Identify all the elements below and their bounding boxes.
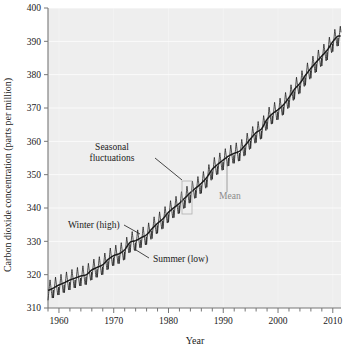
x-tick-label: 1990 <box>214 316 233 326</box>
annotation-text: Seasonal <box>95 142 129 152</box>
y-tick-label: 350 <box>27 170 42 180</box>
y-tick-label: 310 <box>27 303 42 313</box>
y-axis-tick-labels: 310320330340350360370380390400 <box>27 3 42 313</box>
y-tick-label: 360 <box>27 137 42 147</box>
x-tick-label: 1980 <box>159 316 178 326</box>
x-tick-label: 2000 <box>269 316 288 326</box>
x-tick-label: 1960 <box>49 316 68 326</box>
chart-canvas: 310320330340350360370380390400 196019701… <box>0 0 347 351</box>
y-tick-label: 380 <box>27 70 42 80</box>
y-axis-title: Carbon dioxide concentration (parts per … <box>2 78 14 272</box>
annotation-text-line2: fluctuations <box>90 153 135 163</box>
annotation-text: Winter (high) <box>68 220 120 231</box>
x-tick-label: 2010 <box>323 316 342 326</box>
y-tick-label: 390 <box>27 37 42 47</box>
co2-chart-figure: 310320330340350360370380390400 196019701… <box>0 0 347 351</box>
annotation-text: Mean <box>219 191 241 201</box>
y-tick-label: 370 <box>27 103 42 113</box>
annotation-text: Summer (low) <box>153 254 208 265</box>
x-tick-label: 1970 <box>104 316 123 326</box>
y-tick-label: 330 <box>27 237 42 247</box>
x-axis-title: Year <box>186 335 205 346</box>
y-tick-label: 320 <box>27 270 42 280</box>
y-tick-label: 400 <box>27 3 42 13</box>
y-tick-label: 340 <box>27 203 42 213</box>
x-axis-tick-labels: 196019701980199020002010 <box>49 316 342 326</box>
